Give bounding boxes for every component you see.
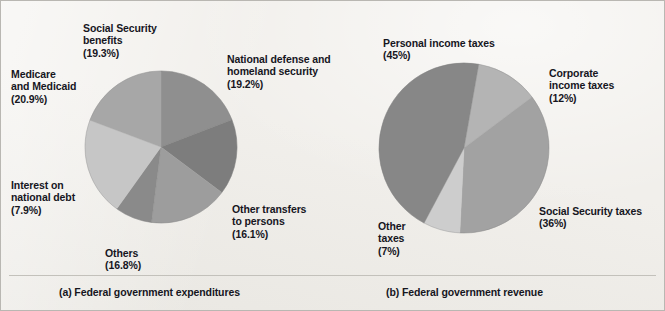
pie-slice [460, 97, 549, 233]
caption-panel-a: (a) Federal government expenditures [59, 286, 240, 298]
label-others: Others (16.8%) [105, 247, 197, 272]
label-interest-on-national-debt: Interest on national debt (7.9%) [11, 179, 115, 216]
label-other-taxes: Other taxes (7%) [378, 220, 438, 257]
pie-slice [464, 64, 532, 148]
caption-panel-b: (b) Federal government revenue [386, 286, 543, 298]
pie-outline [379, 63, 549, 233]
label-other-transfers-to-persons: Other transfers to persons (16.1%) [232, 203, 348, 240]
pie-slice [379, 63, 479, 223]
label-social-security-taxes: Social Security taxes (36%) [539, 205, 663, 230]
label-national-defense-and-homeland-security: National defense and homeland security (… [227, 53, 359, 90]
caption-divider [9, 275, 656, 276]
label-medicare-and-medicaid: Medicare and Medicaid (20.9%) [11, 68, 111, 105]
pie-chart-b [379, 63, 549, 233]
pie-slice [117, 147, 161, 222]
pie-slice [151, 147, 221, 223]
label-social-security-benefits: Social Security benefits (19.3%) [83, 22, 213, 59]
pie-slice [161, 120, 237, 193]
label-personal-income-taxes: Personal income taxes (45%) [383, 37, 531, 62]
label-corporate-income-taxes: Corporate income taxes (12%) [549, 67, 653, 104]
pie-slice [161, 71, 232, 147]
figure-panel: Social Security benefits (19.3%) Medicar… [0, 0, 665, 311]
